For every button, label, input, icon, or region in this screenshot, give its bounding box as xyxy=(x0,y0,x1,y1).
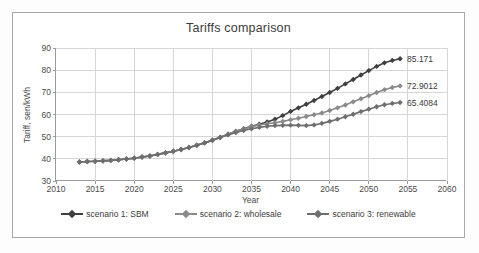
series-line-2 xyxy=(79,103,400,162)
legend-label-1: scenario 2: wholesale xyxy=(200,209,282,219)
y-axis-title: Tariff, sen/kWh xyxy=(21,48,33,181)
y-axis-tick-70: 70 xyxy=(42,87,51,97)
chart-container: Tariffs comparison Tariff, sen/kWh 30405… xyxy=(12,12,465,238)
legend-item-1[interactable]: scenario 2: wholesale xyxy=(175,209,282,219)
x-axis-tick-2055: 2055 xyxy=(398,184,417,194)
legend-marker-icon-1 xyxy=(175,210,197,218)
legend-item-2[interactable]: scenario 3: renewable xyxy=(307,209,415,219)
legend-marker-icon-2 xyxy=(307,210,329,218)
x-axis-tick-2060: 2060 xyxy=(438,184,457,194)
y-axis-title-text: Tariff, sen/kWh xyxy=(22,86,32,142)
chart-series-layer xyxy=(56,48,446,180)
x-axis-tick-2030: 2030 xyxy=(203,184,222,194)
x-axis-tick-2015: 2015 xyxy=(86,184,105,194)
x-axis-tick-2020: 2020 xyxy=(125,184,144,194)
x-axis-tick-2040: 2040 xyxy=(281,184,300,194)
legend-item-0[interactable]: scenario 1: SBM xyxy=(61,209,148,219)
x-axis-tick-2010: 2010 xyxy=(47,184,66,194)
endpoint-label-0: 85.171 xyxy=(407,54,433,64)
y-axis-tick-60: 60 xyxy=(42,110,51,120)
endpoint-label-2: 65.4084 xyxy=(407,98,438,108)
legend-label-0: scenario 1: SBM xyxy=(86,209,148,219)
plot-area: 3040506070809020102015202020252030203520… xyxy=(55,48,446,181)
x-axis-tick-2035: 2035 xyxy=(242,184,261,194)
legend-marker-icon-0 xyxy=(61,210,83,218)
y-axis-tick-80: 80 xyxy=(42,65,51,75)
x-axis-tick-2025: 2025 xyxy=(164,184,183,194)
x-axis-tick-2050: 2050 xyxy=(359,184,378,194)
y-axis-tick-90: 90 xyxy=(42,43,51,53)
series-line-1 xyxy=(79,86,400,162)
x-axis-title: Year xyxy=(55,195,446,205)
legend-label-2: scenario 3: renewable xyxy=(332,209,415,219)
y-axis-tick-50: 50 xyxy=(42,132,51,142)
series-line-0 xyxy=(79,59,400,162)
chart-title: Tariffs comparison xyxy=(13,21,464,35)
chart-legend: scenario 1: SBMscenario 2: wholesalescen… xyxy=(13,209,464,219)
endpoint-label-1: 72.9012 xyxy=(407,81,438,91)
y-axis-tick-40: 40 xyxy=(42,154,51,164)
x-axis-tick-2045: 2045 xyxy=(320,184,339,194)
